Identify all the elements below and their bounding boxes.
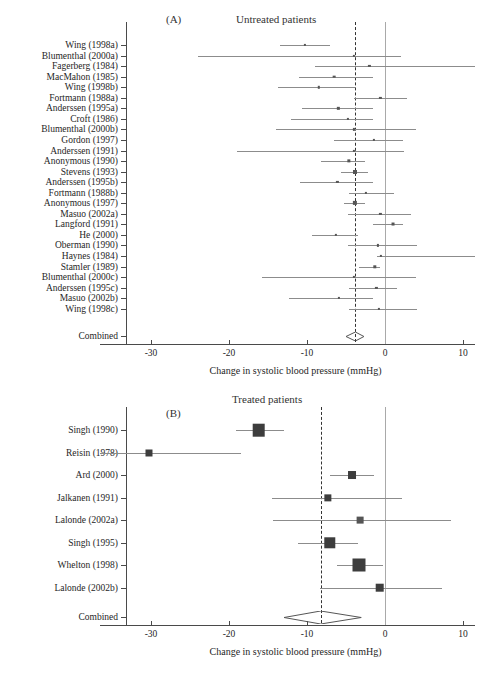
- study-marker: [357, 517, 364, 524]
- x-tick-label-10: 10: [458, 629, 468, 639]
- row-tick: [121, 475, 127, 476]
- row-tick: [121, 203, 127, 204]
- x-tick-label-10: 10: [458, 348, 468, 358]
- x-axis-line: [100, 625, 474, 626]
- row-tick: [121, 66, 127, 67]
- row-tick: [121, 151, 127, 152]
- confidence-interval-line: [299, 77, 373, 78]
- row-tick: [121, 87, 127, 88]
- x-tick--20: [229, 340, 230, 344]
- row-tick: [121, 288, 127, 289]
- row-tick: [121, 245, 127, 246]
- study-marker: [324, 494, 331, 501]
- row-tick: [121, 588, 127, 589]
- confidence-interval-line: [349, 193, 393, 194]
- combined-diamond: [346, 332, 364, 341]
- study-marker: [373, 139, 375, 141]
- study-marker: [379, 97, 381, 99]
- study-marker: [375, 287, 377, 289]
- panel-b-treated: (B) Treated patients Singh (1990)Reisin …: [0, 385, 485, 681]
- study-marker: [377, 244, 379, 246]
- x-tick-10: [463, 340, 464, 344]
- study-marker: [348, 471, 356, 479]
- study-marker: [304, 44, 306, 46]
- x-tick-label-0: 0: [383, 629, 388, 639]
- x-tick-label--10: -10: [301, 348, 314, 358]
- confidence-interval-line: [272, 498, 402, 499]
- x-axis-line: [100, 344, 474, 345]
- panel-b-plot: -30-20-10010Change in systolic blood pre…: [0, 385, 485, 681]
- study-marker: [347, 159, 350, 162]
- study-marker: [391, 223, 394, 226]
- study-marker: [378, 308, 380, 310]
- confidence-interval-line: [262, 277, 416, 278]
- x-tick-label--10: -10: [301, 629, 314, 639]
- x-tick-label--30: -30: [145, 348, 158, 358]
- x-tick--30: [151, 621, 152, 625]
- confidence-interval-line: [100, 453, 240, 454]
- row-tick: [121, 98, 127, 99]
- row-tick: [121, 161, 127, 162]
- study-marker: [337, 107, 339, 109]
- combined-diamond: [284, 611, 361, 624]
- row-tick: [121, 45, 127, 46]
- row-tick: [121, 224, 127, 225]
- combined-row-tick: [121, 617, 127, 618]
- study-marker: [379, 213, 381, 215]
- confidence-interval-line: [315, 66, 475, 67]
- study-marker: [335, 234, 337, 236]
- confidence-interval-line: [289, 298, 372, 299]
- study-marker: [346, 118, 348, 120]
- row-tick: [121, 140, 127, 141]
- study-marker: [353, 54, 355, 56]
- confidence-interval-line: [291, 119, 372, 120]
- reference-line-pooled: [321, 407, 322, 623]
- confidence-interval-line: [334, 140, 403, 141]
- study-marker: [317, 86, 319, 88]
- x-axis-title: Change in systolic blood pressure (mmHg): [210, 646, 382, 657]
- study-marker: [336, 181, 338, 183]
- confidence-interval-line: [377, 256, 475, 257]
- study-marker: [145, 449, 152, 456]
- x-tick-10: [463, 621, 464, 625]
- reference-line-null: [385, 22, 386, 344]
- y-axis-spine: [126, 407, 127, 625]
- study-marker: [353, 559, 366, 572]
- confidence-interval-line: [321, 161, 365, 162]
- study-marker: [333, 75, 336, 78]
- study-marker: [373, 265, 376, 268]
- x-tick-label--20: -20: [223, 629, 236, 639]
- row-tick: [121, 172, 127, 173]
- study-marker: [365, 192, 367, 194]
- row-tick: [121, 430, 127, 431]
- row-tick: [121, 235, 127, 236]
- study-marker: [353, 276, 355, 278]
- row-tick: [121, 108, 127, 109]
- combined-row-tick: [121, 336, 127, 337]
- row-tick: [121, 543, 127, 544]
- row-tick: [121, 298, 127, 299]
- x-tick-label--30: -30: [145, 629, 158, 639]
- study-marker: [252, 424, 265, 437]
- study-marker: [352, 201, 356, 205]
- panel-a-plot: -30-20-10010Change in systolic blood pre…: [0, 0, 485, 380]
- study-marker: [353, 149, 355, 151]
- confidence-interval-line: [278, 87, 354, 88]
- confidence-interval-line: [198, 56, 401, 57]
- confidence-interval-line: [349, 309, 417, 310]
- row-tick: [121, 267, 127, 268]
- x-tick--30: [151, 340, 152, 344]
- confidence-interval-line: [276, 129, 416, 130]
- row-tick: [121, 256, 127, 257]
- x-tick--20: [229, 621, 230, 625]
- row-tick: [121, 56, 127, 57]
- panel-a-untreated: (A) Untreated patients Wing (1998a)Blume…: [0, 0, 485, 380]
- study-marker: [338, 297, 340, 299]
- confidence-interval-line: [237, 151, 404, 152]
- row-tick: [121, 309, 127, 310]
- row-tick: [121, 129, 127, 130]
- study-marker: [353, 128, 355, 130]
- study-marker: [375, 583, 384, 592]
- row-tick: [121, 277, 127, 278]
- row-tick: [121, 182, 127, 183]
